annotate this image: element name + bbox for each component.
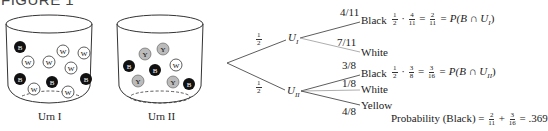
- svg-text:W: W: [46, 59, 53, 67]
- calc-urn2: 12 · 38 = 316 = P(B ∩ UII): [391, 65, 496, 80]
- u2-yellow-prob: 4/8: [342, 105, 356, 117]
- svg-text:W: W: [173, 62, 180, 70]
- svg-text:Y: Y: [142, 51, 147, 59]
- svg-text:B: B: [84, 76, 89, 84]
- node-u1: UI: [288, 31, 298, 46]
- u1-black-outcome: Black: [361, 14, 387, 26]
- calc-urn1: 12 · 411 = 211 = P(B ∩ UI): [391, 12, 494, 27]
- svg-text:W: W: [25, 59, 32, 67]
- svg-text:W: W: [31, 86, 38, 94]
- urn-1: B W W W W W B B B W W: [6, 15, 92, 103]
- svg-text:Y: Y: [160, 46, 165, 54]
- u2-white-outcome: White: [361, 83, 388, 95]
- svg-text:B: B: [187, 81, 192, 89]
- svg-text:B: B: [18, 44, 23, 52]
- svg-text:W: W: [65, 89, 72, 97]
- svg-text:B: B: [153, 67, 158, 75]
- svg-text:W: W: [68, 65, 75, 73]
- svg-text:B: B: [127, 63, 132, 71]
- urn-1-label: Urn I: [38, 110, 62, 122]
- svg-text:W: W: [60, 48, 67, 56]
- branch-prob-u1: 12: [255, 32, 263, 47]
- u1-white-outcome: White: [361, 46, 388, 58]
- svg-text:Y: Y: [170, 79, 175, 87]
- u1-white-prob: 7/11: [337, 36, 356, 48]
- total-probability: Probability (Black) = 211 + 316 = .369: [391, 112, 548, 127]
- branch-prob-u2: 12: [255, 80, 263, 95]
- urn-2: Y Y B B W Y Y B: [117, 15, 203, 103]
- svg-text:W: W: [81, 50, 88, 58]
- u2-black-prob: 3/8: [342, 59, 356, 71]
- svg-text:B: B: [50, 79, 55, 87]
- u2-white-prob: 1/8: [342, 77, 356, 89]
- u1-black-prob: 4/11: [340, 6, 359, 18]
- svg-text:B: B: [18, 76, 23, 84]
- svg-text:Y: Y: [135, 78, 140, 86]
- u2-yellow-outcome: Yellow: [361, 99, 392, 111]
- node-u2: UII: [287, 84, 300, 99]
- urn-2-label: Urn II: [148, 110, 175, 122]
- u2-black-outcome: Black: [361, 67, 387, 79]
